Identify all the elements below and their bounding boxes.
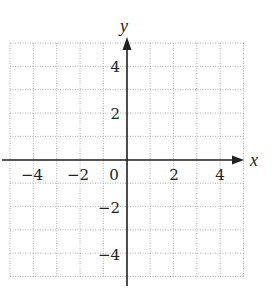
y-axis	[123, 37, 132, 286]
coordinate-plane: x y −4 −2 0 2 4 4 2 −2 −4	[0, 0, 272, 290]
y-axis-label: y	[118, 16, 128, 36]
x-tick-label: 4	[215, 166, 225, 184]
x-axis	[2, 156, 244, 165]
y-axis-arrow-icon	[123, 37, 132, 50]
origin-label: 0	[109, 166, 119, 184]
y-tick-label: −4	[98, 246, 120, 264]
x-axis-arrow-icon	[232, 156, 244, 165]
x-tick-label: 2	[169, 166, 179, 184]
x-tick-label: −4	[21, 166, 43, 184]
x-axis-label: x	[249, 150, 258, 170]
y-tick-label: 2	[110, 105, 120, 123]
y-tick-label: −2	[98, 199, 120, 217]
x-tick-label: −2	[67, 166, 89, 184]
y-tick-label: 4	[110, 58, 120, 76]
